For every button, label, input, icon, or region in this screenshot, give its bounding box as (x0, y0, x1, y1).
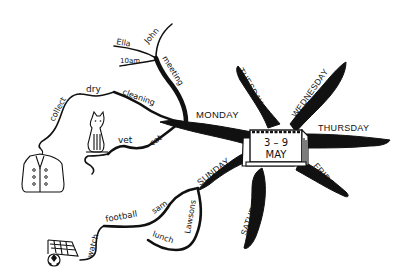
football-goal-icon (48, 240, 78, 266)
mind-map: 3 – 9 MAY MONDAY TUESDAY WEDNESDAY THURS… (0, 0, 403, 280)
label-football: football (105, 209, 138, 224)
label-collect: collect (48, 96, 68, 123)
day-label-tuesday: TUESDAY (236, 66, 265, 107)
branch-monday (160, 121, 252, 147)
label-watch: watch (85, 233, 100, 259)
label-vet: vet (118, 135, 133, 145)
label-10am: 10am (120, 57, 140, 65)
label-sam: sam (150, 199, 169, 216)
day-label-thursday: THURSDAY (318, 123, 369, 133)
calendar-icon: 3 – 9 MAY (242, 130, 308, 166)
calendar-month: MAY (266, 149, 288, 160)
label-dry: dry (86, 84, 101, 94)
cat-icon (86, 112, 108, 152)
branch-thursday (306, 134, 390, 148)
jacket-icon (22, 148, 64, 192)
calendar-dates: 3 – 9 (264, 137, 288, 148)
label-lawsons: Lawsons (183, 199, 198, 234)
day-label-monday: MONDAY (196, 109, 239, 120)
sunday-sub-branches (80, 188, 201, 260)
